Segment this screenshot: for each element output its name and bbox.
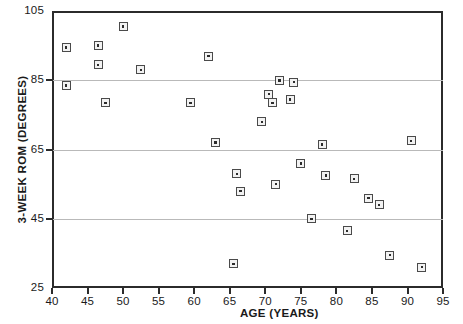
data-point xyxy=(62,43,71,52)
gridline-y-65 xyxy=(52,150,443,151)
data-point xyxy=(307,214,316,223)
gridline-y-85 xyxy=(52,80,443,81)
data-point xyxy=(186,98,195,107)
data-point xyxy=(286,95,295,104)
data-point xyxy=(204,52,213,61)
data-point xyxy=(94,41,103,50)
data-point xyxy=(229,259,238,268)
x-tick-90 xyxy=(407,288,409,294)
y-tick-65 xyxy=(46,149,53,151)
data-point xyxy=(257,117,266,126)
data-point xyxy=(385,251,394,260)
data-point xyxy=(350,174,359,183)
data-point xyxy=(94,60,103,69)
data-point xyxy=(318,140,327,149)
x-tick-95 xyxy=(442,288,444,294)
data-point xyxy=(211,138,220,147)
x-tick-label: 40 xyxy=(37,295,67,307)
x-tick-85 xyxy=(371,288,373,294)
data-point xyxy=(136,65,145,74)
x-tick-60 xyxy=(193,288,195,294)
x-tick-label: 90 xyxy=(393,295,423,307)
x-tick-label: 95 xyxy=(428,295,458,307)
x-tick-label: 60 xyxy=(179,295,209,307)
data-point xyxy=(321,171,330,180)
x-tick-75 xyxy=(300,288,302,294)
data-point xyxy=(275,76,284,85)
x-tick-40 xyxy=(51,288,53,294)
data-point xyxy=(119,22,128,31)
scatter-plot-figure: 40455055606570758085909525456585105 AGE … xyxy=(0,0,463,324)
x-tick-label: 65 xyxy=(215,295,245,307)
data-point xyxy=(271,180,280,189)
data-point xyxy=(407,136,416,145)
plot-area xyxy=(52,11,443,288)
x-tick-45 xyxy=(87,288,89,294)
x-tick-55 xyxy=(158,288,160,294)
x-tick-label: 80 xyxy=(321,295,351,307)
x-axis-label: AGE (YEARS) xyxy=(240,307,319,319)
data-point xyxy=(343,226,352,235)
y-tick-45 xyxy=(46,218,53,220)
x-tick-label: 50 xyxy=(108,295,138,307)
data-point xyxy=(268,98,277,107)
gridline-y-45 xyxy=(52,219,443,220)
data-point xyxy=(375,200,384,209)
x-tick-50 xyxy=(122,288,124,294)
x-tick-label: 45 xyxy=(73,295,103,307)
x-tick-70 xyxy=(264,288,266,294)
data-point xyxy=(296,159,305,168)
data-point xyxy=(364,194,373,203)
data-point xyxy=(232,169,241,178)
data-point xyxy=(417,263,426,272)
data-point xyxy=(264,90,273,99)
data-point xyxy=(101,98,110,107)
y-tick-85 xyxy=(46,79,53,81)
x-tick-label: 85 xyxy=(357,295,387,307)
x-tick-label: 55 xyxy=(144,295,174,307)
data-point xyxy=(289,78,298,87)
x-tick-80 xyxy=(335,288,337,294)
x-tick-65 xyxy=(229,288,231,294)
x-tick-label: 75 xyxy=(286,295,316,307)
x-tick-label: 70 xyxy=(250,295,280,307)
y-axis-label: 3-WEEK ROM (DEGREES) xyxy=(14,11,30,288)
data-point xyxy=(236,187,245,196)
data-point xyxy=(62,81,71,90)
